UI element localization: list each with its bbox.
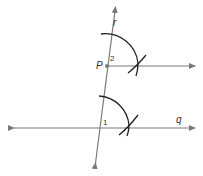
label-q: q: [176, 114, 182, 125]
parallel-construction-diagram: r P 2 1 q: [0, 0, 203, 176]
label-angle-2: 2: [110, 54, 115, 63]
label-r: r: [113, 17, 117, 28]
label-p: P: [96, 60, 103, 71]
point-p: [105, 64, 109, 68]
label-angle-1: 1: [103, 118, 108, 127]
transversal-line-r: [96, 7, 116, 163]
compass-arc-top: [101, 34, 138, 63]
